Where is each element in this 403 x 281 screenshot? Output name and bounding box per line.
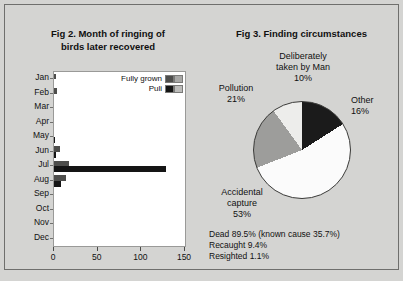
figure-2-title-line-2: birds later recovered — [13, 41, 203, 54]
pie-label-taken-line-1: Deliberately — [279, 51, 327, 61]
figure-3-title: Fig 3. Finding circumstances — [203, 28, 400, 39]
y-axis-tick — [50, 238, 53, 239]
pie-label-accidental-capture: Accidental capture 53% — [203, 187, 281, 220]
bar-chart-plot-area: Fully grown Puli — [53, 71, 186, 247]
pie-chart-graphic — [253, 101, 351, 199]
bar-group-jun — [54, 145, 60, 160]
x-axis-label-50: 50 — [92, 252, 101, 262]
y-axis-label-oct: Oct — [13, 202, 49, 216]
pie-label-pollution-text: Pollution — [219, 83, 254, 93]
x-axis-label-100: 100 — [133, 252, 147, 262]
bar-chart-x-axis: 050100150 — [53, 247, 186, 267]
pie-label-deliberately-taken: Deliberately taken by Man 10% — [249, 51, 357, 84]
bar-puli — [54, 137, 55, 143]
bar-group-feb — [54, 87, 57, 102]
y-axis-label-apr: Apr — [13, 115, 49, 129]
y-axis-tick — [50, 122, 53, 123]
pie-label-accidental-line-2: capture — [227, 198, 257, 208]
y-axis-label-sep: Sep — [13, 187, 49, 201]
figure-2-title-line-1: Fig 2. Month of ringing of — [13, 28, 203, 41]
y-axis-label-jan: Jan — [13, 71, 49, 85]
bar-group-aug — [54, 174, 66, 189]
y-axis-tick — [50, 209, 53, 210]
bar-group-jan — [54, 72, 56, 87]
pie-label-accidental-line-1: Accidental — [221, 187, 263, 197]
y-axis-label-mar: Mar — [13, 100, 49, 114]
y-axis-tick — [50, 194, 53, 195]
y-axis-label-jul: Jul — [13, 158, 49, 172]
x-axis-tick — [97, 247, 98, 251]
pie-value-accidental: 53% — [233, 209, 251, 219]
figure-2-title: Fig 2. Month of ringing of birds later r… — [13, 28, 203, 53]
x-axis-tick — [184, 247, 185, 251]
pie-label-other: Other 16% — [351, 95, 399, 117]
pie-value-other: 16% — [351, 106, 369, 116]
y-axis-tick — [50, 136, 53, 137]
y-axis-label-may: May — [13, 129, 49, 143]
figure-2-bar-chart: Fig 2. Month of ringing of birds later r… — [13, 11, 203, 267]
figure-3-pie-chart: Fig 3. Finding circumstances Deliberatel… — [203, 11, 400, 267]
bar-puli — [54, 181, 61, 187]
y-axis-tick — [50, 180, 53, 181]
footnote-line-3: Resighted 1.1% — [209, 251, 399, 262]
page-border: Fig 2. Month of ringing of birds later r… — [4, 4, 399, 270]
footnote-line-1: Dead 89.5% (known cause 35.7%) — [209, 229, 399, 240]
figure-page: Fig 2. Month of ringing of birds later r… — [0, 0, 403, 281]
pie-value-taken: 10% — [294, 73, 312, 83]
pie-label-other-text: Other — [351, 95, 374, 105]
y-axis-tick — [50, 165, 53, 166]
pie-label-pollution: Pollution 21% — [205, 83, 267, 105]
pie-label-taken-line-2: taken by Man — [276, 62, 330, 72]
x-axis-tick — [140, 247, 141, 251]
y-axis-label-feb: Feb — [13, 86, 49, 100]
bar-group-jul — [54, 159, 166, 174]
y-axis-tick — [50, 151, 53, 152]
bar-fully-grown — [54, 88, 57, 94]
bar-puli — [54, 152, 56, 158]
x-axis-label-150: 150 — [177, 252, 191, 262]
y-axis-tick — [50, 107, 53, 108]
y-axis-label-nov: Nov — [13, 216, 49, 230]
bar-group-may — [54, 130, 55, 145]
y-axis-label-aug: Aug — [13, 173, 49, 187]
bar-fully-grown — [54, 74, 56, 80]
y-axis-label-jun: Jun — [13, 144, 49, 158]
x-axis-label-0: 0 — [51, 252, 56, 262]
bar-rows — [54, 72, 185, 246]
y-axis-tick — [50, 93, 53, 94]
pie-value-pollution: 21% — [227, 94, 245, 104]
y-axis-tick — [50, 223, 53, 224]
bar-puli — [54, 166, 166, 172]
figure-3-footnote: Dead 89.5% (known cause 35.7%) Recaught … — [209, 229, 399, 262]
x-axis-tick — [53, 247, 54, 251]
footnote-line-2: Recaught 9.4% — [209, 240, 399, 251]
y-axis-tick — [50, 78, 53, 79]
y-axis-label-dec: Dec — [13, 231, 49, 245]
